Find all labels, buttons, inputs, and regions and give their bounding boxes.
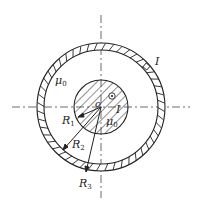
- coaxial-diagram: μ0 μ0 o I I R1 R2 R3: [0, 0, 198, 205]
- r2-label: R2: [71, 138, 85, 152]
- r3-label: R3: [78, 177, 92, 191]
- outer-current-label: I: [154, 55, 160, 68]
- center-o-label: o: [95, 98, 101, 109]
- mu0-outer-label: μ0: [55, 74, 67, 88]
- inner-current-label: I: [115, 103, 121, 116]
- current-dot-icon: [111, 95, 113, 97]
- r1-label: R1: [61, 114, 75, 128]
